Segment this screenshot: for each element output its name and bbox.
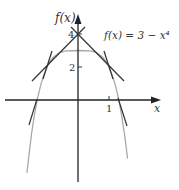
tangent-left-long [32, 27, 85, 81]
y-tick-label-4: 4 [68, 29, 74, 40]
equation-label: f(x) = 3 − x⁴ [103, 29, 170, 41]
x-tick-label-1: 1 [106, 103, 112, 114]
x-axis-label: x [154, 102, 161, 115]
tangent-at-minus-1 [43, 51, 52, 79]
y-tick-label-2: 2 [69, 62, 75, 73]
tangent-at-plus-1 [104, 51, 113, 79]
y-axis-label: f(x) [54, 11, 76, 25]
function-graph: f(x) x 1 4 2 f(x) = 3 − x⁴ [0, 0, 179, 190]
